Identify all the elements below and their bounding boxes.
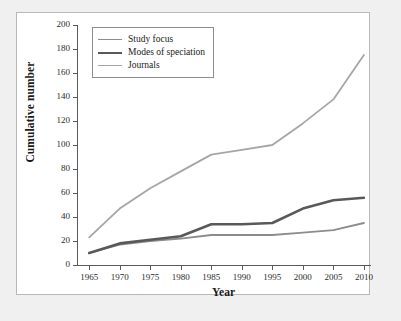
y-axis-tick-labels: 020406080100120140160180200 <box>37 0 70 321</box>
y-tick-label: 60 <box>40 188 70 197</box>
y-tick-label: 40 <box>40 212 70 221</box>
legend-label: Study focus <box>128 34 173 45</box>
legend-label: Journals <box>128 60 160 71</box>
y-tick-label: 140 <box>40 92 70 101</box>
y-tick-label: 80 <box>40 164 70 173</box>
y-tick-label: 180 <box>40 44 70 53</box>
x-tick <box>120 266 121 270</box>
y-tick-label: 0 <box>40 260 70 269</box>
x-axis-line <box>77 265 371 266</box>
y-tick-label: 20 <box>40 236 70 245</box>
series-line <box>89 223 364 253</box>
series-line <box>89 55 364 237</box>
y-axis-title: Cumulative number <box>24 32 36 192</box>
legend-item: Journals <box>98 59 207 72</box>
x-tick <box>150 266 151 270</box>
x-axis-title: Year <box>77 286 370 298</box>
legend-line-swatch <box>98 52 122 54</box>
x-tick <box>303 266 304 270</box>
x-tick <box>242 266 243 270</box>
x-tick <box>181 266 182 270</box>
y-tick <box>73 265 77 266</box>
legend-line-swatch <box>98 39 122 40</box>
legend-line-swatch <box>98 65 122 66</box>
x-tick-label: 2010 <box>344 272 384 282</box>
y-tick-label: 200 <box>40 20 70 29</box>
legend-item: Modes of speciation <box>98 46 207 59</box>
x-tick <box>272 266 273 270</box>
y-tick-label: 120 <box>40 116 70 125</box>
legend-item: Study focus <box>98 33 207 46</box>
x-tick <box>333 266 334 270</box>
x-tick <box>211 266 212 270</box>
x-tick <box>364 266 365 270</box>
legend-label: Modes of speciation <box>128 47 205 58</box>
y-tick-label: 160 <box>40 68 70 77</box>
series-line <box>89 198 364 253</box>
y-tick-label: 100 <box>40 140 70 149</box>
x-tick <box>89 266 90 270</box>
figure-canvas: 020406080100120140160180200 196519701975… <box>0 0 401 321</box>
chart-legend: Study focusModes of speciationJournals <box>92 27 214 78</box>
